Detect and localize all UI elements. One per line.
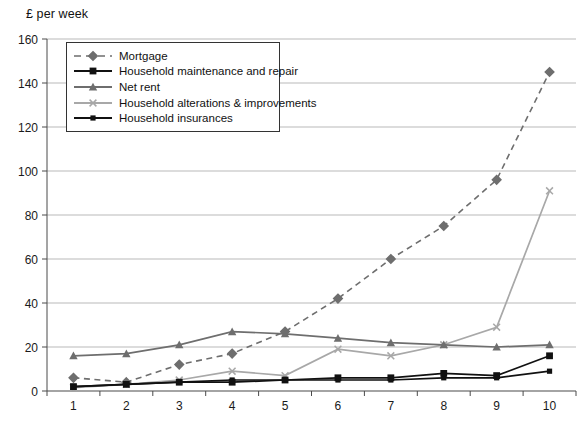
- legend-item-label: Household maintenance and repair: [119, 64, 298, 78]
- data-point-marker: [546, 352, 553, 359]
- legend-swatch-square-small-icon: [73, 111, 113, 125]
- data-point-marker: [545, 68, 553, 76]
- data-point-marker: [90, 68, 97, 75]
- data-point-marker: [70, 383, 77, 390]
- data-point-marker: [69, 374, 77, 382]
- legend-item-label: Mortgage: [119, 49, 168, 63]
- data-point-marker: [228, 349, 236, 357]
- legend-item: Household maintenance and repair: [73, 64, 272, 80]
- x-axis-tick-label: 3: [176, 399, 183, 413]
- y-axis-tick-label: 100: [18, 165, 38, 179]
- data-point-marker: [176, 379, 183, 386]
- y-axis-tick-label: 60: [25, 253, 39, 267]
- y-axis-tick-label: 40: [25, 297, 39, 311]
- x-axis-tick-label: 2: [123, 399, 130, 413]
- x-axis-tick-label: 4: [229, 399, 236, 413]
- data-point-marker: [229, 379, 236, 386]
- legend-swatch-diamond-icon: [73, 49, 113, 63]
- x-axis-tick-label: 9: [493, 399, 500, 413]
- data-point-marker: [89, 52, 97, 60]
- x-axis-tick-label: 7: [388, 399, 395, 413]
- series-household-maintenance-and-repair: [70, 352, 553, 390]
- y-axis-tick-label: 0: [31, 385, 38, 399]
- legend-item: Household alterations & improvements: [73, 95, 272, 111]
- legend-swatch-square-icon: [73, 64, 113, 78]
- x-axis-tick-label: 10: [543, 399, 557, 413]
- legend-item-label: Household alterations & improvements: [119, 96, 317, 110]
- data-point-marker: [175, 360, 183, 368]
- series-line: [73, 332, 549, 356]
- data-point-marker: [123, 381, 130, 388]
- x-axis-tick-label: 1: [70, 399, 77, 413]
- line-chart: £ per week 02040608010012014016012345678…: [0, 0, 588, 427]
- legend-item-label: Household insurances: [119, 111, 233, 125]
- legend-item: Mortgage: [73, 48, 272, 64]
- y-axis-tick-label: 80: [25, 209, 39, 223]
- data-point-marker: [90, 116, 95, 121]
- x-axis-tick-label: 5: [282, 399, 289, 413]
- series-household-alterations-improvements: [70, 187, 553, 391]
- data-point-marker: [546, 187, 553, 194]
- data-point-marker: [335, 374, 342, 381]
- y-axis-tick-label: 140: [18, 77, 38, 91]
- y-axis-tick-label: 120: [18, 121, 38, 135]
- y-axis-tick-label: 20: [25, 341, 39, 355]
- legend-swatch-triangle-icon: [73, 80, 113, 94]
- data-point-marker: [493, 372, 500, 379]
- legend-item: Household insurances: [73, 110, 272, 126]
- chart-legend: MortgageHousehold maintenance and repair…: [66, 42, 280, 132]
- legend-swatch-cross-icon: [73, 96, 113, 110]
- series-line: [73, 356, 549, 387]
- x-axis-tick-label: 8: [440, 399, 447, 413]
- legend-item-label: Net rent: [119, 80, 160, 94]
- data-point-marker: [440, 370, 447, 377]
- legend-item: Net rent: [73, 79, 272, 95]
- x-axis-tick-label: 6: [335, 399, 342, 413]
- data-point-marker: [547, 369, 552, 374]
- y-axis-tick-label: 160: [18, 33, 38, 47]
- data-point-marker: [282, 377, 289, 384]
- series-line: [73, 191, 549, 388]
- data-point-marker: [387, 255, 395, 263]
- data-point-marker: [387, 374, 394, 381]
